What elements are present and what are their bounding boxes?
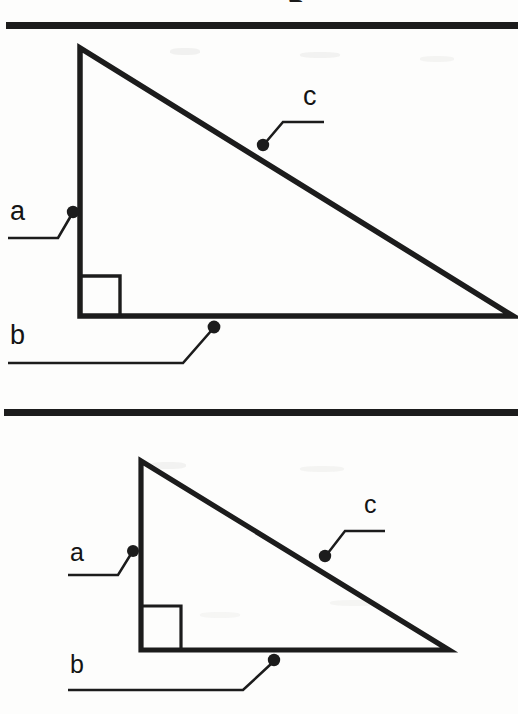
leader-line-b-upper	[8, 331, 211, 363]
right-triangle-lower	[0, 0, 518, 714]
leader-dot-c-lower	[319, 550, 331, 562]
scanned-page: g a b c	[0, 0, 518, 714]
leader-line-b-lower	[68, 664, 271, 690]
side-label-a-upper: a	[10, 198, 25, 225]
leader-dot-a-upper	[67, 206, 79, 218]
leader-line-c-upper	[266, 122, 324, 142]
top-rule	[6, 22, 518, 29]
middle-rule	[4, 409, 518, 416]
leader-dot-b-upper	[208, 321, 221, 334]
right-angle-marker-upper	[80, 276, 120, 316]
side-label-b-lower: b	[70, 652, 84, 677]
scan-speck	[420, 56, 454, 62]
scan-speck	[200, 612, 240, 618]
scan-speck	[300, 52, 340, 58]
triangle-outline-upper	[80, 48, 513, 316]
scan-speck	[300, 466, 344, 472]
side-label-c-upper: c	[303, 83, 317, 110]
side-label-a-lower: a	[70, 540, 84, 565]
triangle-outline-lower	[141, 461, 449, 650]
leader-dot-c-upper	[257, 139, 269, 151]
cropped-heading-fragment: g	[288, 0, 324, 2]
leader-dot-b-lower	[268, 654, 280, 666]
scan-speck	[150, 462, 186, 469]
leader-line-c-lower	[328, 531, 385, 553]
side-label-b-upper: b	[10, 322, 25, 349]
right-triangle-upper	[0, 0, 518, 714]
side-label-c-lower: c	[364, 492, 377, 517]
leader-dot-a-lower	[127, 545, 139, 557]
scan-speck	[330, 600, 380, 606]
scan-speck	[170, 48, 200, 55]
right-angle-marker-lower	[141, 606, 181, 650]
